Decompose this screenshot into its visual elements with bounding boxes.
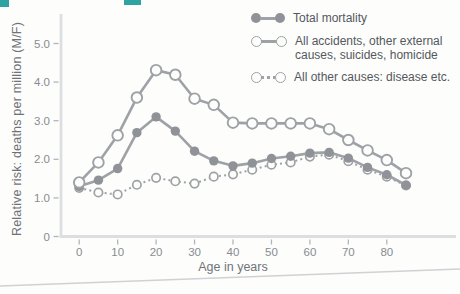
data-point	[133, 181, 141, 189]
data-point	[94, 188, 102, 196]
data-point	[94, 175, 103, 184]
data-point	[190, 179, 198, 187]
data-point	[209, 156, 218, 165]
data-point	[113, 190, 121, 198]
data-point	[286, 152, 295, 161]
legend-item-other-causes: All other causes: disease etc.	[251, 70, 450, 84]
data-point	[112, 130, 123, 141]
legend-label-line: All accidents, other external	[295, 34, 442, 48]
data-point	[382, 155, 393, 166]
x-axis-title: Age in years	[198, 260, 267, 274]
y-tick-label: 2.0	[34, 153, 50, 165]
data-point	[229, 170, 237, 178]
legend-item-accidents: All accidents, other external causes, su…	[251, 34, 442, 62]
series-line-0	[79, 117, 406, 186]
data-point	[152, 174, 160, 182]
data-point	[210, 172, 218, 180]
data-point	[228, 161, 237, 170]
legend-label: All other causes: disease etc.	[294, 70, 450, 84]
data-point	[267, 154, 276, 163]
data-point	[74, 177, 85, 188]
data-point	[189, 93, 200, 104]
y-tick-label: 5.0	[34, 38, 50, 50]
x-tick-label: 30	[188, 246, 201, 258]
data-point	[171, 177, 179, 185]
solid-line-icon	[260, 17, 276, 20]
y-tick-label: 4.0	[34, 76, 50, 88]
dotted-line-icon	[261, 76, 276, 79]
y-tick-label: 3.0	[34, 115, 50, 127]
data-point	[248, 158, 257, 167]
data-point	[132, 92, 143, 103]
scanned-chart-page: 0102030405060708001.02.03.04.05.0Age in …	[0, 0, 460, 294]
open-circle-icon	[275, 72, 286, 83]
data-point	[363, 163, 372, 172]
x-tick-label: 50	[265, 246, 278, 258]
solid-line-icon	[261, 40, 277, 43]
data-point	[324, 148, 333, 157]
y-tick-label: 1.0	[34, 192, 50, 204]
data-point	[93, 157, 104, 168]
data-point	[170, 69, 181, 80]
filled-circle-icon	[275, 13, 285, 23]
legend-label: Total mortality	[293, 11, 367, 25]
x-tick-label: 20	[150, 246, 163, 258]
data-point	[401, 180, 410, 189]
y-tick-label: 0	[44, 231, 50, 243]
data-point	[208, 100, 219, 111]
data-point	[228, 117, 239, 128]
x-tick-label: 80	[380, 246, 393, 258]
legend-label-line: All other causes: disease etc.	[294, 70, 450, 84]
data-point	[132, 128, 141, 137]
open-circle-icon	[276, 36, 287, 47]
data-point	[190, 146, 199, 155]
legend-item-total-mortality: Total mortality	[251, 11, 367, 25]
legend-glyph-open-line	[251, 34, 287, 48]
data-point	[113, 164, 122, 173]
data-point	[247, 118, 258, 129]
series-line-2	[79, 155, 406, 195]
data-point	[343, 135, 354, 146]
x-tick-label: 40	[227, 246, 240, 258]
data-point	[305, 148, 314, 157]
legend-label: All accidents, other external causes, su…	[295, 34, 442, 62]
y-axis-title: Relative risk: deaths per million (M/F)	[10, 22, 24, 236]
x-tick-label: 0	[76, 246, 82, 258]
data-point	[266, 118, 277, 129]
x-tick-label: 70	[342, 246, 355, 258]
data-point	[362, 145, 373, 156]
data-point	[324, 124, 335, 135]
legend-glyph-open-dotted	[251, 70, 286, 84]
data-point	[344, 153, 353, 162]
x-tick-label: 60	[304, 246, 317, 258]
data-point	[151, 65, 162, 76]
data-point	[305, 118, 316, 129]
data-point	[382, 170, 391, 179]
legend-label-line: causes, suicides, homicide	[295, 48, 438, 62]
legend-label-line: Total mortality	[293, 11, 367, 25]
legend-glyph-filled-line	[251, 11, 285, 25]
x-tick-label: 10	[111, 246, 124, 258]
data-point	[151, 112, 160, 121]
data-point	[401, 168, 412, 179]
data-point	[171, 126, 180, 135]
data-point	[285, 118, 296, 129]
